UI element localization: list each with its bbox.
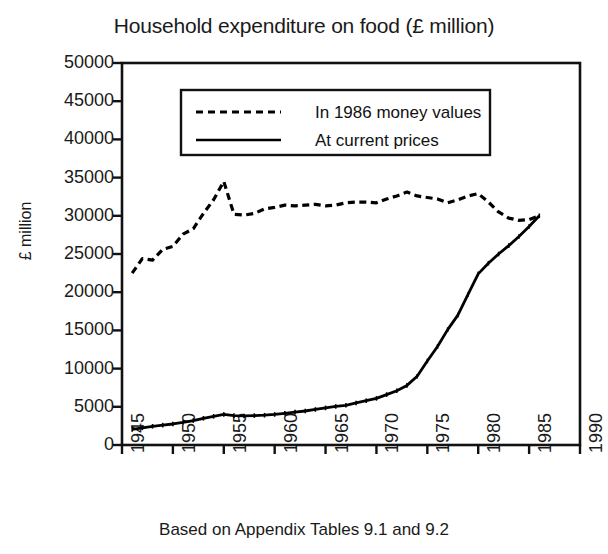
legend-label-at-current-prices: At current prices (315, 131, 439, 150)
plot-area: In 1986 money values At current prices (0, 0, 608, 554)
chart-legend: In 1986 money values At current prices (181, 90, 490, 155)
data-series-line-1 (132, 216, 539, 430)
data-series-line-0 (132, 181, 539, 273)
chart-figure: Household expenditure on food (£ million… (0, 0, 608, 554)
y-axis-ticks (113, 63, 122, 445)
data-series-group (132, 181, 539, 431)
chart-caption: Based on Appendix Tables 9.1 and 9.2 (0, 520, 608, 540)
x-axis-ticks (122, 445, 580, 454)
legend-label-in-1986-money-values: In 1986 money values (315, 103, 481, 122)
